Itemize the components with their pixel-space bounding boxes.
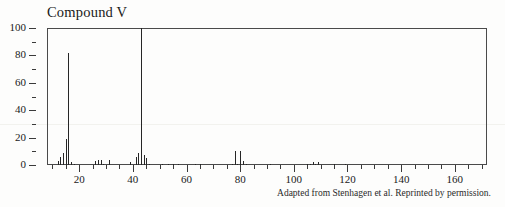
x-tick-major: [294, 165, 295, 172]
x-tick-label: 40: [127, 173, 138, 185]
x-tick-label: 60: [181, 173, 192, 185]
x-tick-minor: [267, 165, 268, 169]
x-tick-minor: [66, 165, 67, 169]
x-tick-minor: [334, 165, 335, 169]
x-tick-minor: [468, 165, 469, 169]
x-tick-minor: [200, 165, 201, 169]
x-tick-minor: [441, 165, 442, 169]
x-tick-minor: [52, 165, 53, 169]
x-tick-label: 120: [339, 173, 356, 185]
x-tick-minor: [361, 165, 362, 169]
x-tick-major: [401, 165, 402, 172]
x-tick-label: 100: [286, 173, 303, 185]
x-tick-minor: [388, 165, 389, 169]
attribution-text: Adapted from Stenhagen et al. Reprinted …: [277, 188, 491, 199]
x-tick-label: 140: [393, 173, 410, 185]
x-tick-minor: [307, 165, 308, 169]
x-tick-label: 160: [447, 173, 464, 185]
x-tick-minor: [428, 165, 429, 169]
x-tick-minor: [93, 165, 94, 169]
x-tick-minor: [374, 165, 375, 169]
x-axis: 20406080100120140160: [0, 0, 505, 207]
x-tick-major: [455, 165, 456, 172]
x-tick-major: [347, 165, 348, 172]
x-tick-major: [187, 165, 188, 172]
x-tick-minor: [173, 165, 174, 169]
x-tick-major: [240, 165, 241, 172]
x-tick-minor: [321, 165, 322, 169]
x-tick-label: 80: [235, 173, 246, 185]
x-tick-label: 20: [74, 173, 85, 185]
x-tick-minor: [227, 165, 228, 169]
x-tick-minor: [213, 165, 214, 169]
x-tick-minor: [415, 165, 416, 169]
x-tick-minor: [160, 165, 161, 169]
x-tick-minor: [106, 165, 107, 169]
x-tick-major: [79, 165, 80, 172]
x-tick-minor: [482, 165, 483, 169]
x-tick-minor: [254, 165, 255, 169]
x-tick-minor: [280, 165, 281, 169]
x-tick-minor: [119, 165, 120, 169]
x-tick-minor: [146, 165, 147, 169]
mass-spectrum-figure: Compound V 020406080100 2040608010012014…: [0, 0, 505, 207]
x-tick-major: [133, 165, 134, 172]
